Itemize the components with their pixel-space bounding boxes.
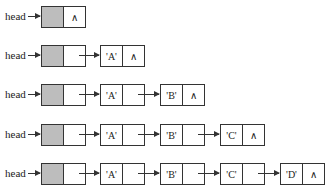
head-node [41, 163, 86, 185]
list-node: 'D'∧ [280, 163, 325, 185]
null-pointer-icon: ∧ [183, 85, 204, 105]
data-cell: 'D' [281, 164, 303, 184]
list-row: head'A''B'∧ [0, 84, 326, 108]
head-node: ∧ [41, 6, 86, 28]
data-cell: 'B' [161, 85, 183, 105]
arrow-icon [28, 16, 40, 17]
list-row: head'A'∧ [0, 45, 326, 69]
head-node [41, 45, 86, 67]
list-node: 'B'∧ [160, 84, 205, 106]
list-node: 'B' [160, 163, 205, 185]
head-label: head [5, 10, 26, 22]
null-pointer-icon: ∧ [64, 7, 85, 27]
head-data-cell [42, 125, 64, 145]
next-pointer-arrow-icon [198, 134, 219, 135]
data-cell: 'A' [101, 125, 123, 145]
next-pointer-arrow-icon [138, 173, 159, 174]
data-cell: 'B' [161, 125, 183, 145]
arrow-icon [28, 94, 40, 95]
list-row: head∧ [0, 6, 326, 30]
arrow-icon [28, 55, 40, 56]
next-cell [64, 46, 85, 66]
null-pointer-icon: ∧ [303, 164, 324, 184]
head-data-cell [42, 7, 64, 27]
head-label: head [5, 49, 26, 61]
head-data-cell [42, 46, 64, 66]
arrow-icon [28, 134, 40, 135]
null-pointer-icon: ∧ [243, 125, 264, 145]
list-node: 'A' [100, 124, 145, 146]
head-label: head [5, 128, 26, 140]
next-cell [123, 164, 144, 184]
arrow-icon [28, 173, 40, 174]
next-pointer-arrow-icon [138, 94, 159, 95]
next-cell [123, 85, 144, 105]
next-cell [183, 125, 204, 145]
head-data-cell [42, 85, 64, 105]
next-pointer-arrow-icon [258, 173, 279, 174]
next-cell [64, 164, 85, 184]
list-node: 'A'∧ [100, 45, 145, 67]
head-label: head [5, 167, 26, 179]
data-cell: 'A' [101, 85, 123, 105]
data-cell: 'A' [101, 164, 123, 184]
list-node: 'A' [100, 84, 145, 106]
list-node: 'C'∧ [220, 124, 265, 146]
next-pointer-arrow-icon [138, 134, 159, 135]
head-node [41, 124, 86, 146]
null-pointer-icon: ∧ [123, 46, 144, 66]
next-pointer-arrow-icon [79, 134, 99, 135]
list-row: head'A''B''C''D'∧ [0, 163, 326, 187]
head-data-cell [42, 164, 64, 184]
next-cell [243, 164, 264, 184]
next-pointer-arrow-icon [79, 94, 99, 95]
next-pointer-arrow-icon [198, 173, 219, 174]
data-cell: 'B' [161, 164, 183, 184]
next-pointer-arrow-icon [79, 173, 99, 174]
list-node: 'A' [100, 163, 145, 185]
data-cell: 'A' [101, 46, 123, 66]
head-node [41, 84, 86, 106]
next-cell [183, 164, 204, 184]
list-node: 'B' [160, 124, 205, 146]
data-cell: 'C' [221, 125, 243, 145]
next-cell [123, 125, 144, 145]
next-cell [64, 125, 85, 145]
list-node: 'C' [220, 163, 265, 185]
next-pointer-arrow-icon [79, 55, 99, 56]
list-row: head'A''B''C'∧ [0, 124, 326, 148]
data-cell: 'C' [221, 164, 243, 184]
head-label: head [5, 88, 26, 100]
next-cell [64, 85, 85, 105]
